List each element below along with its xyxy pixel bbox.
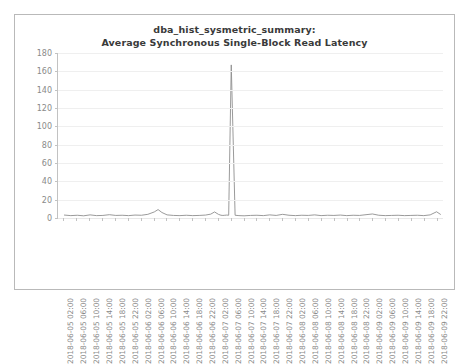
x-tick-mark <box>244 218 245 221</box>
chart-title-line-1: dba_hist_sysmetric_summary: <box>15 23 454 36</box>
x-tick-label: 2018-06-09 18:00 <box>427 298 436 364</box>
x-axis: 2018-06-05 02:002018-06-05 06:002018-06-… <box>57 218 443 304</box>
x-tick-mark <box>295 218 296 221</box>
y-tick-label: 180 <box>37 49 52 58</box>
x-tick-mark <box>347 218 348 221</box>
y-tick-mark <box>55 108 58 109</box>
y-axis: 020406080100120140160180 <box>33 53 55 218</box>
gridline <box>58 126 443 127</box>
x-tick-label: 2018-06-07 02:00 <box>221 298 230 364</box>
y-tick-label: 40 <box>42 177 52 186</box>
y-tick-label: 160 <box>37 67 52 76</box>
x-tick-label: 2018-06-09 10:00 <box>401 298 410 364</box>
x-tick-label: 2018-06-06 18:00 <box>195 298 204 364</box>
x-tick-mark <box>282 218 283 221</box>
x-tick-mark <box>218 218 219 221</box>
y-tick-mark <box>55 126 58 127</box>
y-tick-label: 140 <box>37 85 52 94</box>
gridline <box>58 71 443 72</box>
chart-frame: dba_hist_sysmetric_summary: Average Sync… <box>14 14 455 290</box>
chart-title-line-2: Average Synchronous Single-Block Read La… <box>15 36 454 49</box>
y-tick-label: 80 <box>42 140 52 149</box>
x-tick-label: 2018-06-05 10:00 <box>92 298 101 364</box>
x-tick-label: 2018-06-08 18:00 <box>350 298 359 364</box>
gridline <box>58 181 443 182</box>
x-tick-label: 2018-06-07 18:00 <box>272 298 281 364</box>
series-path <box>64 65 440 216</box>
x-tick-mark <box>398 218 399 221</box>
x-tick-label: 2018-06-06 10:00 <box>169 298 178 364</box>
x-tick-mark <box>76 218 77 221</box>
x-tick-label: 2018-06-05 06:00 <box>79 298 88 364</box>
gridline <box>58 200 443 201</box>
y-tick-label: 60 <box>42 159 52 168</box>
x-tick-label: 2018-06-05 02:00 <box>66 298 75 364</box>
x-tick-mark <box>179 218 180 221</box>
x-tick-mark <box>115 218 116 221</box>
x-tick-mark <box>385 218 386 221</box>
gridline <box>58 90 443 91</box>
x-tick-label: 2018-06-09 14:00 <box>414 298 423 364</box>
y-tick-label: 100 <box>37 122 52 131</box>
y-tick-label: 20 <box>42 195 52 204</box>
chart-title: dba_hist_sysmetric_summary: Average Sync… <box>15 23 454 49</box>
x-tick-label: 2018-06-09 22:00 <box>440 298 449 364</box>
y-tick-label: 0 <box>47 214 52 223</box>
x-tick-label: 2018-06-05 14:00 <box>105 298 114 364</box>
y-tick-label: 120 <box>37 104 52 113</box>
x-tick-label: 2018-06-08 22:00 <box>362 298 371 364</box>
x-tick-label: 2018-06-05 22:00 <box>131 298 140 364</box>
x-tick-mark <box>205 218 206 221</box>
y-tick-mark <box>55 53 58 54</box>
gridline <box>58 163 443 164</box>
gridline <box>58 145 443 146</box>
plot-area <box>57 53 443 218</box>
x-tick-mark <box>231 218 232 221</box>
y-tick-mark <box>55 71 58 72</box>
x-tick-label: 2018-06-07 06:00 <box>234 298 243 364</box>
x-tick-label: 2018-06-07 10:00 <box>247 298 256 364</box>
x-tick-mark <box>372 218 373 221</box>
x-tick-mark <box>128 218 129 221</box>
x-tick-mark <box>192 218 193 221</box>
y-tick-mark <box>55 90 58 91</box>
x-tick-label: 2018-06-09 06:00 <box>388 298 397 364</box>
series-line <box>58 53 443 218</box>
y-tick-mark <box>55 163 58 164</box>
x-tick-mark <box>308 218 309 221</box>
x-tick-label: 2018-06-09 02:00 <box>375 298 384 364</box>
x-tick-label: 2018-06-08 14:00 <box>337 298 346 364</box>
x-tick-label: 2018-06-06 14:00 <box>182 298 191 364</box>
x-tick-mark <box>359 218 360 221</box>
x-tick-label: 2018-06-06 06:00 <box>157 298 166 364</box>
y-tick-mark <box>55 200 58 201</box>
x-tick-mark <box>63 218 64 221</box>
x-tick-label: 2018-06-08 10:00 <box>324 298 333 364</box>
x-tick-label: 2018-06-07 22:00 <box>285 298 294 364</box>
x-tick-label: 2018-06-06 02:00 <box>144 298 153 364</box>
plot-wrapper: 020406080100120140160180 <box>33 53 443 218</box>
y-tick-mark <box>55 145 58 146</box>
x-tick-label: 2018-06-06 22:00 <box>208 298 217 364</box>
x-tick-mark <box>437 218 438 221</box>
x-tick-mark <box>334 218 335 221</box>
x-tick-mark <box>256 218 257 221</box>
gridline <box>58 53 443 54</box>
x-tick-label: 2018-06-05 18:00 <box>118 298 127 364</box>
x-tick-mark <box>166 218 167 221</box>
x-tick-label: 2018-06-08 02:00 <box>298 298 307 364</box>
x-tick-label: 2018-06-07 14:00 <box>259 298 268 364</box>
x-tick-mark <box>141 218 142 221</box>
x-tick-mark <box>269 218 270 221</box>
x-tick-mark <box>424 218 425 221</box>
x-tick-label: 2018-06-08 06:00 <box>311 298 320 364</box>
x-tick-mark <box>411 218 412 221</box>
x-tick-mark <box>102 218 103 221</box>
y-tick-mark <box>55 181 58 182</box>
x-tick-mark <box>154 218 155 221</box>
x-tick-mark <box>89 218 90 221</box>
gridline <box>58 108 443 109</box>
x-tick-mark <box>321 218 322 221</box>
